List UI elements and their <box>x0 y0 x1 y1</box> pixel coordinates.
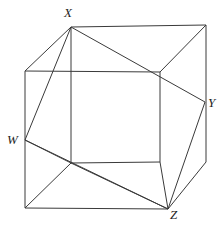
inscribed-edge-x-y <box>71 27 205 102</box>
cube-edge-top-left-slant <box>25 27 71 71</box>
vertex-label-y: Y <box>208 96 215 109</box>
cube-edge-front-bottom <box>25 208 168 209</box>
cube-edge-front-top <box>25 71 160 72</box>
vertex-label-x: X <box>64 6 72 19</box>
cube-edge-bottom-left-slant <box>25 163 71 208</box>
edge-group <box>25 25 206 209</box>
inscribed-diagonal-inner-z <box>71 163 168 209</box>
geometry-figure: XYWZ <box>0 0 224 230</box>
inscribed-diagonal-inner-right-z <box>160 162 168 209</box>
cube-diagram-svg <box>0 0 224 230</box>
cube-edge-bottom-right-slant <box>168 162 206 209</box>
vertex-label-w: W <box>7 133 18 146</box>
inscribed-edge-y-z <box>168 102 205 209</box>
cube-edge-top-right-slant <box>160 25 206 72</box>
vertex-label-z: Z <box>170 208 177 221</box>
cube-edge-inner-bottom <box>71 162 160 163</box>
cube-edge-back-top <box>71 25 206 27</box>
inscribed-diagonal-w-inner <box>25 140 71 163</box>
inscribed-edge-w-x <box>25 27 71 140</box>
